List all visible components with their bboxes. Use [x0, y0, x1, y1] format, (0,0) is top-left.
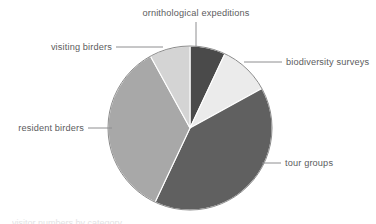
slice-label-biodiversity-surveys: biodiversity surveys — [286, 57, 369, 67]
pie-chart-svg: ornithological expeditionsbiodiversity s… — [0, 0, 376, 224]
pie-slices-group — [108, 46, 272, 210]
slice-label-tour-groups: tour groups — [285, 158, 333, 168]
slice-label-resident-birders: resident birders — [18, 123, 84, 133]
slice-label-visiting-birders: visiting birders — [51, 42, 112, 52]
clipped-footer-caption: visitor numbers by category — [12, 218, 212, 224]
pie-chart-figure: ornithological expeditionsbiodiversity s… — [0, 0, 376, 224]
slice-label-ornithological-expeditions: ornithological expeditions — [142, 8, 249, 18]
